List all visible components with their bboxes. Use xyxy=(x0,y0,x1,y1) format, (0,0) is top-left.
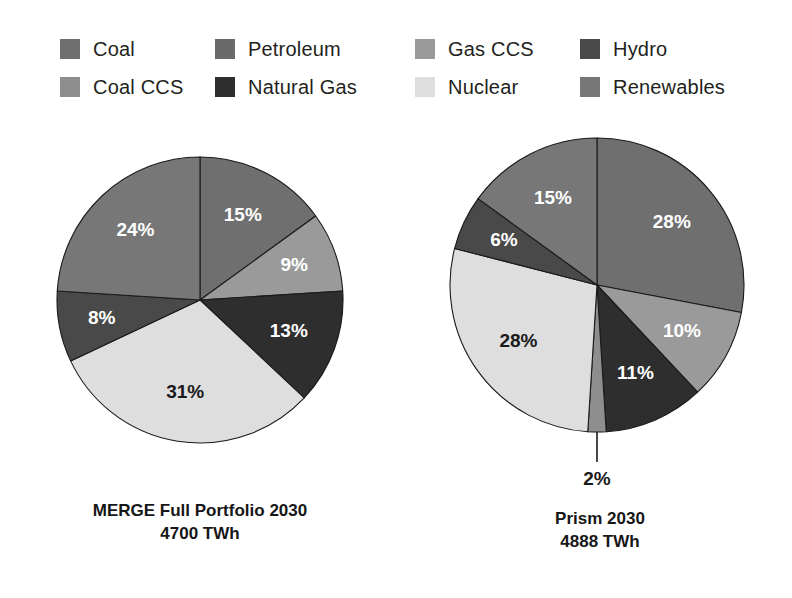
pie-slice-label: 28% xyxy=(499,330,537,351)
pie-slice-label: 11% xyxy=(617,362,654,383)
pie-slice-label: 31% xyxy=(166,381,204,402)
caption-left: MERGE Full Portfolio 2030 4700 TWh xyxy=(40,500,360,546)
pie-slice-label: 6% xyxy=(490,229,518,250)
pie-slice-label: 15% xyxy=(534,187,572,208)
pie-right-svg: 28%10%11%2%28%6%15% xyxy=(400,0,792,490)
pie-slice-label: 8% xyxy=(88,307,116,328)
caption-right-title: Prism 2030 xyxy=(440,508,760,531)
pie-chart-left: 15%9%13%31%8%24% xyxy=(0,0,400,480)
pie-slice-label: 13% xyxy=(270,320,308,341)
pie-slice-label: 10% xyxy=(663,320,701,341)
pie-slice-label: 24% xyxy=(116,219,154,240)
pie-chart-right: 28%10%11%2%28%6%15% xyxy=(400,0,792,490)
caption-left-total: 4700 TWh xyxy=(40,523,360,546)
pie-chart-figure: Coal Petroleum Gas CCS Hydro Coal CCS Na… xyxy=(0,0,792,598)
caption-right: Prism 2030 4888 TWh xyxy=(440,508,760,554)
pie-left-svg: 15%9%13%31%8%24% xyxy=(0,0,400,480)
caption-right-total: 4888 TWh xyxy=(440,531,760,554)
pie-slice-label: 28% xyxy=(653,211,691,232)
pie-slice-label: 9% xyxy=(280,254,308,275)
caption-left-title: MERGE Full Portfolio 2030 xyxy=(40,500,360,523)
pie-slice-label: 2% xyxy=(583,468,611,489)
pie-slice-label: 15% xyxy=(224,204,262,225)
